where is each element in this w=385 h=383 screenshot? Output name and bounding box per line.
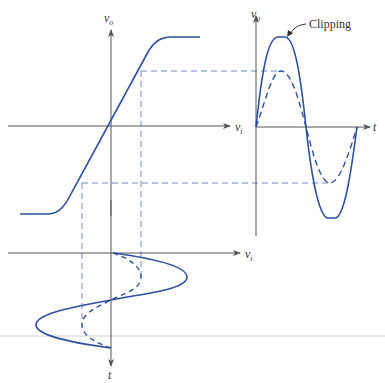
input-t-label: t [108,368,112,382]
clipping-annotation: Clipping [309,17,351,31]
transfer-vo-label: vo [104,11,113,27]
transfer-plot: vo vi [8,11,243,216]
projection-lines [82,71,330,325]
output-plot: vo t Clipping [251,7,377,236]
output-vo-label: vo [251,7,260,23]
output-t-label: t [373,120,377,134]
input-vi-label: vi [245,247,253,263]
clipping-diagram: vo vi vo t Clipping vi t [0,0,385,383]
input-plot: vi t [8,200,253,382]
transfer-vi-label: vi [235,120,243,136]
